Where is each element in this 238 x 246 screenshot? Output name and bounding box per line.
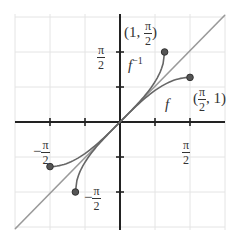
label-point-right: (π2, 1): [193, 86, 226, 113]
frac-pi-over-2: π2: [92, 185, 100, 212]
denominator: 2: [183, 153, 189, 166]
label-f: f: [165, 97, 169, 112]
function-inverse-plot: [0, 0, 238, 246]
frac-pi-over-2: π2: [144, 20, 152, 47]
point-lower-finv: [72, 189, 79, 196]
label-point-upper: (1, π2): [124, 20, 157, 47]
frac-pi-over-2: π2: [41, 139, 49, 166]
denominator: 2: [98, 58, 104, 71]
label-f-inverse: f−1: [128, 56, 143, 73]
numerator: π: [92, 185, 100, 199]
numerator: π: [198, 86, 206, 100]
frac-pi-over-2: π2: [198, 86, 206, 113]
inverse-exponent: −1: [132, 55, 143, 66]
minus-sign: −: [84, 189, 92, 205]
numerator: π: [182, 139, 190, 153]
label-x-tick-neg: −π2: [33, 139, 50, 166]
paren-close: , 1): [206, 90, 226, 106]
point-upper-finv: [161, 49, 168, 56]
denominator: 2: [43, 153, 49, 166]
label-y-tick-pos: π2: [97, 44, 105, 71]
frac-pi-over-2: π2: [182, 139, 190, 166]
paren-open: (1,: [124, 24, 144, 40]
point-right-f: [187, 74, 194, 81]
frac-pi-over-2: π2: [97, 44, 105, 71]
numerator: π: [41, 139, 49, 153]
denominator: 2: [145, 34, 151, 47]
label-x-tick-pos: π2: [182, 139, 190, 166]
label-y-tick-neg: −π2: [84, 185, 101, 212]
minus-sign: −: [33, 143, 41, 159]
denominator: 2: [94, 199, 100, 212]
numerator: π: [144, 20, 152, 34]
denominator: 2: [199, 100, 205, 113]
paren-close: ): [152, 24, 157, 40]
numerator: π: [97, 44, 105, 58]
